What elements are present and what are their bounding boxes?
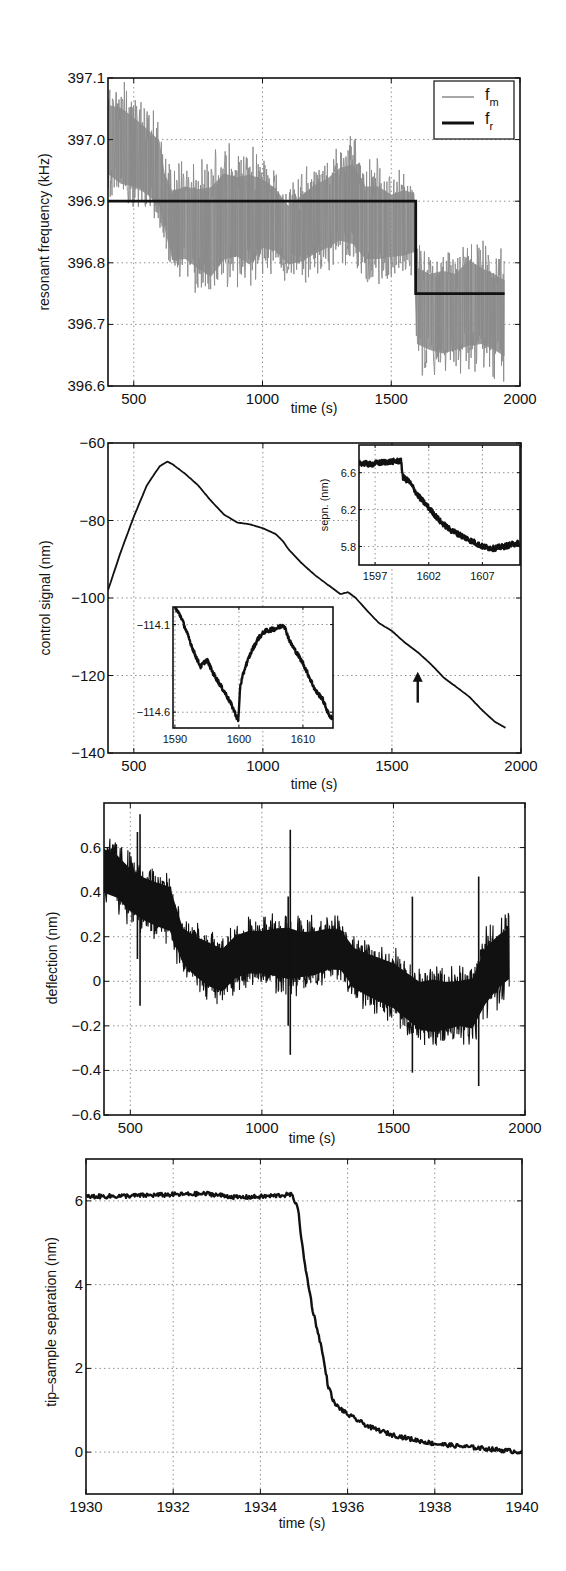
y-tick-label: −80 (80, 512, 105, 529)
x-tick-label: 1500 (375, 757, 408, 774)
x-axis-label: time (s) (279, 1515, 326, 1531)
arrow-annotation (413, 672, 423, 703)
x-axis-label: time (s) (291, 400, 338, 416)
y-tick-label: −114.1 (137, 619, 170, 631)
y-tick-label: 0 (93, 972, 101, 989)
x-tick-label: 1940 (505, 1498, 538, 1515)
x-tick-label: 2000 (508, 1119, 541, 1136)
y-tick-label: −0.4 (71, 1061, 101, 1078)
x-tick-label: 1610 (291, 733, 315, 745)
y-tick-label: −60 (80, 434, 105, 451)
inset-control-zoom: 159016001610−114.6−114.1 (137, 606, 333, 745)
y-tick-label: 0.2 (80, 928, 101, 945)
x-tick-label: 2000 (504, 757, 537, 774)
x-tick-label: 1597 (363, 570, 387, 582)
x-tick-label: 500 (118, 1119, 143, 1136)
y-tick-label: 6 (75, 1192, 83, 1209)
y-tick-label: 0 (75, 1443, 83, 1460)
y-tick-label: 6.2 (341, 504, 356, 516)
y-tick-label: 396.6 (67, 377, 105, 394)
y-tick-label: −140 (71, 744, 105, 761)
figure: 500100015002000396.6396.7396.8396.9397.0… (0, 0, 566, 1571)
x-tick-label: 1932 (157, 1498, 190, 1515)
y-axis-label: control signal (nm) (37, 540, 53, 655)
panel-control-signal: 500100015002000−140−120−100−80−60 time (… (37, 434, 538, 792)
y-tick-label: 397.1 (67, 69, 105, 86)
x-tick-label: 500 (121, 390, 146, 407)
y-tick-label: −114.6 (137, 706, 170, 718)
x-tick-label: 1600 (227, 733, 251, 745)
y-tick-label: 0.4 (80, 883, 101, 900)
panel-resonant-frequency: 500100015002000396.6396.7396.8396.9397.0… (36, 69, 537, 416)
x-tick-label: 1500 (375, 390, 408, 407)
x-axis-label: time (s) (291, 776, 338, 792)
x-tick-label: 1602 (417, 570, 441, 582)
x-tick-label: 1934 (244, 1498, 277, 1515)
x-tick-label: 500 (121, 757, 146, 774)
legend: fm fr (434, 81, 514, 139)
panel-tip-sample-separation: 1930193219341936193819400246 time (s) ti… (43, 1159, 539, 1531)
x-tick-label: 1500 (377, 1119, 410, 1136)
y-tick-label: −100 (71, 589, 105, 606)
plot-area (104, 814, 509, 1086)
x-tick-label: 1607 (470, 570, 494, 582)
y-tick-label: 0.6 (80, 839, 101, 856)
x-tick-label: 1930 (69, 1498, 102, 1515)
y-tick-label: 396.7 (67, 315, 105, 332)
x-tick-label: 1000 (246, 757, 279, 774)
y-tick-label: −0.2 (71, 1017, 101, 1034)
y-tick-label: 5.8 (341, 541, 356, 553)
y-axis-label: resonant frequency (kHz) (36, 153, 52, 310)
x-tick-label: 2000 (503, 390, 536, 407)
x-tick-label: 1000 (246, 390, 279, 407)
y-axis-label: deflection (nm) (44, 912, 60, 1005)
y-tick-label: 396.9 (67, 192, 105, 209)
x-tick-label: 1000 (245, 1119, 278, 1136)
y-tick-label: 6.6 (341, 467, 356, 479)
y-tick-label: 4 (75, 1276, 83, 1293)
y-tick-label: 397.0 (67, 131, 105, 148)
y-tick-label: −120 (71, 667, 105, 684)
x-axis-label: time (s) (289, 1130, 336, 1146)
panel-deflection: 500100015002000−0.6−0.4−0.200.20.40.6 ti… (44, 803, 542, 1146)
inset-y-axis-label: sepn. (nm) (318, 479, 330, 532)
x-tick-label: 1936 (331, 1498, 364, 1515)
y-tick-label: −0.6 (71, 1106, 101, 1123)
tick-labels: 1930193219341936193819400246 (69, 1159, 538, 1515)
y-tick-label: 396.8 (67, 254, 105, 271)
x-tick-label: 1938 (418, 1498, 451, 1515)
plot-area (86, 1192, 522, 1453)
y-axis-label: tip–sample separation (nm) (43, 1237, 59, 1407)
x-tick-label: 1590 (163, 733, 187, 745)
inset-separation: 1597160216075.86.26.6 sepn. (nm) (318, 445, 520, 582)
y-tick-label: 2 (75, 1359, 83, 1376)
